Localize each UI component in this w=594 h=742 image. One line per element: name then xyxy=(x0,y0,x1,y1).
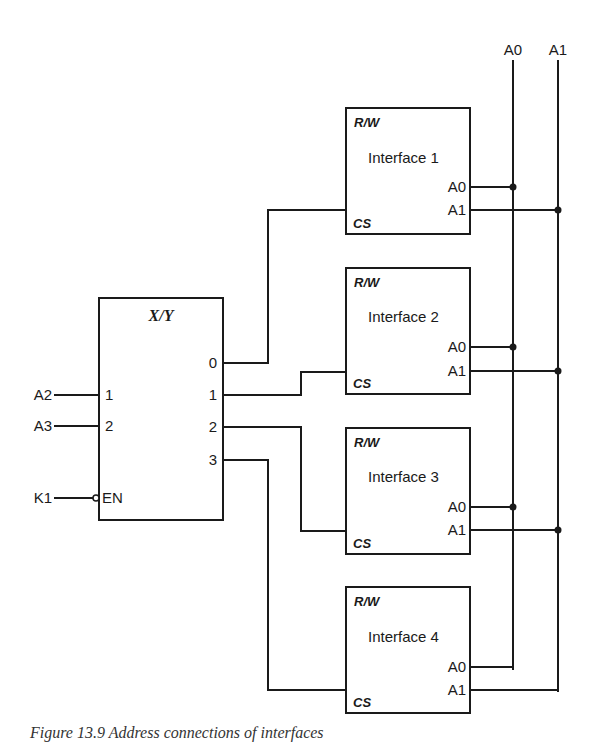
if4-a0-wire xyxy=(470,660,513,667)
if3-rw-label: R/W xyxy=(354,435,381,450)
decoder-input-2-pin: 2 xyxy=(105,417,113,434)
output-0-wire xyxy=(223,210,346,363)
decoder-output-1-label: 1 xyxy=(209,386,217,403)
decoder-input-1-pin: 1 xyxy=(105,386,113,403)
if3-a1-label: A1 xyxy=(448,521,466,538)
if2-name: Interface 2 xyxy=(368,308,439,325)
if4-cs-label: CS xyxy=(353,695,371,710)
output-3-wire xyxy=(223,460,346,690)
junction-dot xyxy=(555,527,562,534)
decoder-output-0-label: 0 xyxy=(209,354,217,371)
if1-a1-label: A1 xyxy=(448,201,466,218)
bus-a1-label: A1 xyxy=(549,41,567,58)
if3-a0-label: A0 xyxy=(448,498,466,515)
a2-signal-label: A2 xyxy=(34,386,52,403)
if1-name: Interface 1 xyxy=(368,149,439,166)
decoder-title: X/Y xyxy=(148,307,175,324)
output-2-wire xyxy=(223,427,346,531)
if2-a1-label: A1 xyxy=(448,362,466,379)
decoder-box xyxy=(99,298,223,520)
bus-a0-label: A0 xyxy=(504,41,522,58)
if3-name: Interface 3 xyxy=(368,468,439,485)
output-1-wire xyxy=(223,372,346,395)
a3-signal-label: A3 xyxy=(34,417,52,434)
decoder-output-2-label: 2 xyxy=(209,418,217,435)
if4-a1-label: A1 xyxy=(448,681,466,698)
if4-name: Interface 4 xyxy=(368,628,439,645)
if3-cs-label: CS xyxy=(353,536,371,551)
junction-dot xyxy=(555,207,562,214)
junction-dot xyxy=(555,368,562,375)
enable-inversion-bubble xyxy=(93,495,99,501)
if1-rw-label: R/W xyxy=(354,115,381,130)
junction-dot xyxy=(510,344,517,351)
junction-dot xyxy=(510,504,517,511)
if4-rw-label: R/W xyxy=(354,594,381,609)
decoder-enable-pin: EN xyxy=(102,489,123,506)
if4-a1-wire xyxy=(470,680,558,690)
if2-cs-label: CS xyxy=(353,376,371,391)
junction-dot xyxy=(510,184,517,191)
figure-caption: Figure 13.9 Address connections of inter… xyxy=(30,724,324,742)
if1-a0-label: A0 xyxy=(448,178,466,195)
if4-a0-label: A0 xyxy=(448,658,466,675)
if2-rw-label: R/W xyxy=(354,275,381,290)
if2-a0-label: A0 xyxy=(448,338,466,355)
k1-signal-label: K1 xyxy=(34,489,52,506)
decoder-output-3-label: 3 xyxy=(209,451,217,468)
if1-cs-label: CS xyxy=(353,216,371,231)
